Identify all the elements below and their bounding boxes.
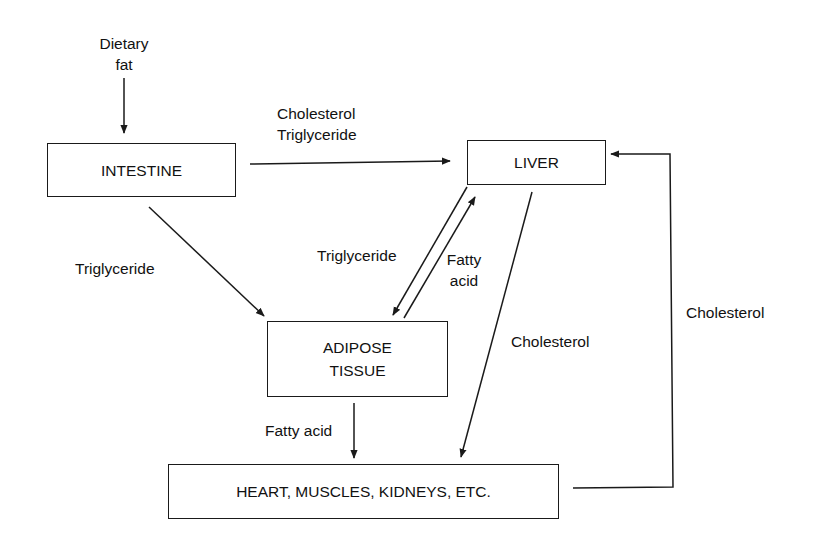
node-organs-label: HEART, MUSCLES, KIDNEYS, ETC. (236, 480, 491, 503)
label-intestine-to-liver: Cholesterol Triglyceride (277, 103, 357, 145)
label-fatty: Fatty (440, 249, 488, 270)
label-adipose-to-liver: Fatty acid (440, 249, 488, 291)
label-liver-to-organs: Cholesterol (511, 331, 589, 352)
label-liver-to-adipose: Triglyceride (317, 245, 397, 266)
label-cholesterol: Cholesterol (277, 103, 357, 124)
node-adipose-tissue: ADIPOSE TISSUE (267, 321, 448, 397)
node-heart-muscles-kidneys: HEART, MUSCLES, KIDNEYS, ETC. (168, 464, 559, 519)
label-dietary-fat-line2: fat (86, 54, 162, 75)
arrow-intestine-to-liver (250, 161, 450, 164)
label-organs-to-liver: Cholesterol (686, 302, 764, 323)
label-adipose-to-organs: Fatty acid (265, 420, 332, 441)
arrow-organs-to-liver (573, 154, 673, 488)
node-adipose-label-line1: ADIPOSE (323, 336, 392, 359)
label-dietary-fat: Dietary fat (86, 33, 162, 75)
label-acid: acid (440, 270, 488, 291)
arrow-intestine-to-adipose (149, 207, 264, 316)
node-liver-label: LIVER (514, 151, 559, 174)
node-intestine-label: INTESTINE (101, 159, 182, 182)
node-intestine: INTESTINE (47, 143, 236, 197)
node-liver: LIVER (467, 140, 606, 185)
arrow-liver-to-organs (461, 192, 532, 457)
node-adipose-label-line2: TISSUE (330, 359, 386, 382)
label-intestine-to-adipose: Triglyceride (75, 258, 155, 279)
label-dietary-fat-line1: Dietary (86, 33, 162, 54)
label-triglyceride: Triglyceride (277, 124, 357, 145)
